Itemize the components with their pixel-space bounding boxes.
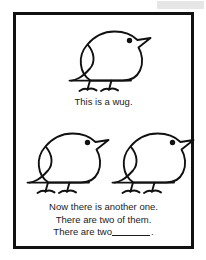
caption-single-wug: This is a wug. — [16, 96, 191, 109]
wug-bird-single — [59, 18, 154, 98]
wug-eye — [127, 38, 132, 43]
caption-line: There are two of them. — [16, 214, 191, 227]
page-root: This is a wug. — [0, 0, 206, 260]
caption-line-with-blank: There are two. — [16, 226, 191, 239]
top-gray-band — [157, 1, 204, 9]
wug-bird-left — [17, 120, 112, 200]
caption-two-wugs: Now there is another one. There are two … — [16, 201, 191, 239]
answer-blank[interactable] — [112, 227, 150, 236]
card-inner: This is a wug. — [16, 15, 191, 246]
caption-trailing-punctuation: . — [151, 226, 154, 237]
panel-single-wug: This is a wug. — [16, 15, 191, 117]
caption-line: This is a wug. — [16, 96, 191, 109]
wug-card-frame: This is a wug. — [13, 12, 194, 249]
caption-line-prefix: There are two — [53, 226, 112, 237]
caption-line: Now there is another one. — [16, 201, 191, 214]
panel-two-wugs: Now there is another one. There are two … — [16, 117, 191, 249]
wug-eye — [85, 140, 90, 145]
wug-bird-right — [102, 120, 197, 200]
wug-eye — [170, 140, 175, 145]
